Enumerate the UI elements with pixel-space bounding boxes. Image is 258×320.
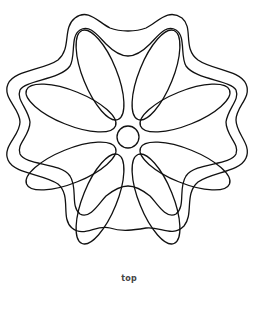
inner-outline: [19, 28, 237, 215]
petal: [20, 132, 122, 199]
petal: [134, 74, 236, 141]
petal: [20, 74, 122, 141]
petal: [122, 148, 189, 250]
petal: [66, 24, 133, 126]
petal: [122, 24, 189, 126]
figure-caption: top: [0, 274, 258, 283]
flower-drawing: [0, 0, 258, 320]
figure-canvas: top: [0, 0, 258, 320]
outer-outline: [7, 15, 248, 232]
petal: [134, 132, 236, 199]
petal: [66, 148, 133, 250]
center-circle: [117, 126, 139, 148]
petals: [20, 24, 236, 250]
